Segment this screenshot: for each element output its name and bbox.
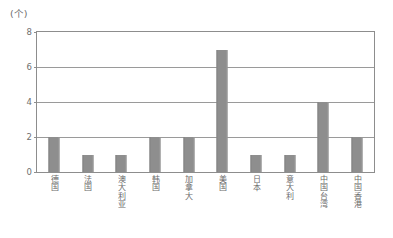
bar-slot [172,32,206,172]
x-axis-tick-label: 意大利 [285,175,293,200]
bars-layer [37,32,374,172]
bar-slot [104,32,138,172]
bar [284,155,295,173]
bar [183,137,194,172]
bar-slot [71,32,105,172]
y-tick-label: 2 [27,133,32,142]
bar-slot [206,32,240,172]
y-tick-mark-0 [34,172,37,173]
x-axis-tick-label: 加拿大 [183,175,191,200]
x-axis-tick-label: 韩国 [150,175,158,192]
bar [251,155,262,173]
bar-slot [340,32,374,172]
x-label-slot: 加拿大 [171,175,205,237]
x-label-slot: 中国台湾 [306,175,340,237]
x-label-slot: 澳大利亚 [103,175,137,237]
x-label-slot: 意大利 [272,175,306,237]
bar [149,137,160,172]
x-label-slot: 美国 [205,175,239,237]
bar-slot [37,32,71,172]
x-axis-tick-label: 法国 [82,175,90,192]
x-axis-tick-label: 中国香港 [352,175,360,209]
x-label-slot: 德国 [36,175,70,237]
bar [116,155,127,173]
x-axis-tick-label: 中国台湾 [318,175,326,209]
y-tick-label: 4 [27,98,32,107]
bar-slot [239,32,273,172]
bar-slot [273,32,307,172]
bar [352,137,363,172]
bar-chart: (个) 02468 德国法国澳大利亚韩国加拿大美国日本意大利中国台湾中国香港 [0,0,393,238]
y-tick-label: 8 [27,28,32,37]
x-label-slot: 中国香港 [339,175,373,237]
bar [48,137,59,172]
x-label-slot: 法国 [70,175,104,237]
x-axis-tick-label: 美国 [217,175,225,192]
y-tick-label: 0 [27,168,32,177]
x-axis-tick-label: 日本 [251,175,259,192]
bar [82,155,93,173]
x-axis-tick-label: 澳大利亚 [116,175,124,209]
x-axis-labels: 德国法国澳大利亚韩国加拿大美国日本意大利中国台湾中国香港 [36,175,375,237]
bar-slot [307,32,341,172]
bar-slot [138,32,172,172]
bar [217,50,228,173]
y-axis-unit-label: (个) [10,6,27,20]
x-label-slot: 韩国 [137,175,171,237]
x-axis-tick-label: 德国 [49,175,57,192]
bar [318,102,329,172]
plot-area: 02468 [36,31,375,173]
x-label-slot: 日本 [238,175,272,237]
y-tick-label: 6 [27,63,32,72]
